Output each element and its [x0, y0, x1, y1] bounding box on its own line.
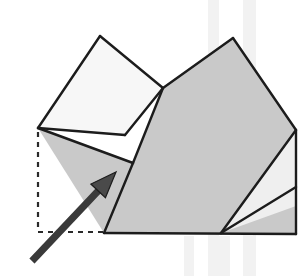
origami-diagram-canvas	[0, 0, 307, 276]
stripe-lower-right	[219, 236, 230, 276]
stripe-lower-left	[184, 236, 194, 276]
edge-body-bottom	[104, 233, 296, 234]
origami-diagram-figure: Origami folding step diagram A folded pa…	[0, 0, 307, 276]
